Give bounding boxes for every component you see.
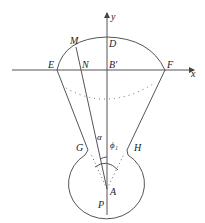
label-y-axis: y <box>111 12 115 22</box>
label-H: H <box>134 143 141 153</box>
funnel-right-side <box>127 70 165 150</box>
label-E: E <box>48 60 54 70</box>
label-D: D <box>109 39 116 49</box>
label-P: P <box>98 200 104 210</box>
dotted-line-A-H <box>107 154 124 189</box>
line-M-A <box>76 47 107 189</box>
label-B-prime: B′ <box>109 60 117 70</box>
dotted-arc <box>66 84 153 99</box>
label-N: N <box>82 60 89 70</box>
diagram-svg <box>0 0 205 223</box>
label-F: F <box>167 60 173 70</box>
label-phi: ϕ₁ <box>110 141 118 150</box>
alpha-angle-arc <box>100 157 107 159</box>
label-A: A <box>110 187 116 197</box>
label-G: G <box>76 143 83 153</box>
label-alpha: α <box>97 133 102 142</box>
funnel-geometry-diagram: y x M D E N B′ F G H α ϕ₁ A P <box>0 0 205 223</box>
dotted-line-A-G <box>91 154 107 189</box>
label-M: M <box>70 36 78 46</box>
label-x-axis: x <box>191 69 195 79</box>
